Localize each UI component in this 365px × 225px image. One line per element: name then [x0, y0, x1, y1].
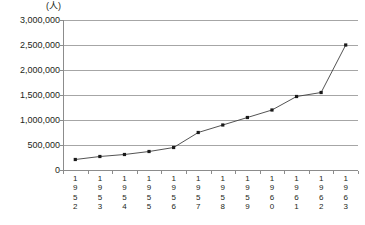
x-axis-tick-mark [260, 171, 261, 174]
series-line [75, 45, 345, 160]
data-point-marker [172, 146, 175, 149]
data-point-marker [246, 116, 249, 119]
data-point-marker [295, 95, 298, 98]
data-point-marker [197, 131, 200, 134]
x-axis-tick-mark [235, 171, 236, 174]
x-axis-tick-mark [112, 171, 113, 174]
data-series-line [0, 0, 365, 225]
data-point-marker [147, 150, 150, 153]
x-axis-tick-mark [211, 171, 212, 174]
data-point-marker [98, 155, 101, 158]
data-point-marker [344, 43, 347, 46]
data-point-marker [74, 158, 77, 161]
data-point-marker [270, 108, 273, 111]
data-point-marker [123, 153, 126, 156]
x-axis-tick-mark [358, 171, 359, 174]
x-axis-tick-mark [88, 171, 89, 174]
data-point-marker [221, 123, 224, 126]
x-axis-tick-mark [333, 171, 334, 174]
x-axis-tick-mark [284, 171, 285, 174]
x-axis-tick-mark [161, 171, 162, 174]
line-chart: (人) 0500,0001,000,0001,500,0002,000,0002… [0, 0, 365, 225]
x-axis-tick-mark [186, 171, 187, 174]
x-axis-tick-mark [63, 171, 64, 174]
x-axis-tick-mark [309, 171, 310, 174]
data-point-marker [320, 91, 323, 94]
x-axis-tick-mark [137, 171, 138, 174]
